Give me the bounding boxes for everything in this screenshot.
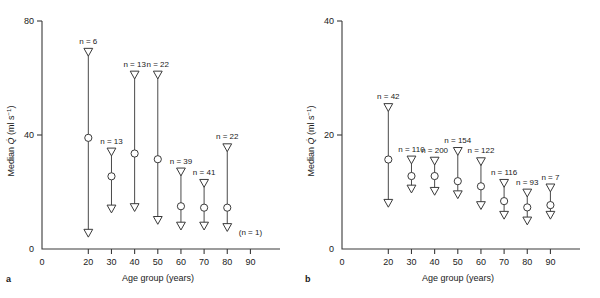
- lower-limit-marker: [153, 217, 162, 225]
- upper-limit-marker: [407, 156, 416, 164]
- lower-limit-marker: [500, 211, 509, 219]
- panel-a-plot: 0408002030405060708090Age group (years)M…: [0, 0, 300, 298]
- y-tick-label: 0: [29, 244, 34, 254]
- y-tick-label: 80: [24, 16, 34, 26]
- lower-limit-marker: [107, 205, 116, 213]
- x-tick-label: 90: [545, 257, 555, 267]
- x-axis-title: Age group (years): [422, 273, 494, 283]
- upper-limit-marker: [523, 189, 532, 197]
- sample-size-label: n = 6: [79, 37, 98, 46]
- sample-size-label: n = 39: [170, 157, 193, 166]
- figure-container: 0408002030405060708090Age group (years)M…: [0, 0, 600, 298]
- sample-size-label: n = 200: [421, 146, 448, 155]
- sample-size-label: n = 13: [100, 137, 123, 146]
- median-marker: [454, 178, 461, 185]
- median-marker: [547, 202, 554, 209]
- x-tick-label: 60: [476, 257, 486, 267]
- median-marker: [131, 150, 138, 157]
- y-tick-label: 0: [329, 244, 334, 254]
- lower-limit-marker: [177, 222, 186, 230]
- lower-limit-marker: [384, 199, 393, 207]
- median-marker: [501, 198, 508, 205]
- upper-limit-marker: [177, 168, 186, 176]
- x-tick-label: 60: [176, 257, 186, 267]
- lower-limit-marker: [453, 191, 462, 199]
- x-tick-label: 50: [153, 257, 163, 267]
- lower-limit-marker: [84, 229, 93, 237]
- lower-limit-marker: [200, 222, 209, 230]
- x-tick-label: 70: [199, 257, 209, 267]
- lower-limit-marker: [130, 204, 139, 212]
- y-axis-title: Median Q̇ (ml s−1): [305, 105, 316, 176]
- lower-limit-marker: [430, 187, 439, 195]
- sample-size-label: n = 41: [193, 168, 216, 177]
- x-tick-label: 30: [106, 257, 116, 267]
- upper-limit-marker: [430, 157, 439, 165]
- sample-size-label: n = 93: [516, 178, 539, 187]
- x-tick-label: 80: [222, 257, 232, 267]
- panel-a: 0408002030405060708090Age group (years)M…: [0, 0, 300, 298]
- sample-size-label: n = 154: [444, 136, 471, 145]
- sample-size-label: n = 13: [123, 60, 146, 69]
- x-tick-label: 40: [130, 257, 140, 267]
- upper-limit-marker: [223, 144, 232, 152]
- upper-limit-marker: [477, 158, 486, 166]
- x-tick-label: 80: [522, 257, 532, 267]
- panel-b: 0204002030405060708090Age group (years)M…: [300, 0, 600, 298]
- upper-limit-marker: [500, 179, 509, 187]
- x-axis-title: Age group (years): [122, 273, 194, 283]
- upper-limit-marker: [453, 148, 462, 156]
- upper-limit-marker: [84, 48, 93, 56]
- lower-limit-marker: [546, 211, 555, 219]
- x-tick-label: 90: [245, 257, 255, 267]
- median-marker: [154, 156, 161, 163]
- median-marker: [408, 172, 415, 179]
- median-marker: [201, 204, 208, 211]
- median-marker: [524, 204, 531, 211]
- x-tick-label: 20: [83, 257, 93, 267]
- upper-limit-marker: [130, 71, 139, 79]
- x-tick-label: 0: [339, 257, 344, 267]
- lower-limit-marker: [477, 202, 486, 210]
- axis-lines: [42, 21, 280, 249]
- upper-limit-marker: [153, 71, 162, 79]
- panel-b-letter: b: [305, 274, 311, 284]
- sample-size-label: n = 42: [377, 92, 400, 101]
- upper-limit-marker: [546, 184, 555, 192]
- sample-size-label: n = 22: [147, 60, 170, 69]
- sample-size-label: n = 122: [467, 146, 494, 155]
- x-tick-label: 30: [406, 257, 416, 267]
- x-tick-label: 70: [499, 257, 509, 267]
- upper-limit-marker: [200, 179, 209, 187]
- median-marker: [431, 172, 438, 179]
- median-marker: [385, 156, 392, 163]
- median-marker: [177, 203, 184, 210]
- sample-size-label: n = 116: [491, 168, 518, 177]
- x-tick-label: 50: [453, 257, 463, 267]
- y-tick-label: 20: [324, 130, 334, 140]
- median-marker: [108, 173, 115, 180]
- y-axis-title: Median Q̇ (ml s−1): [5, 105, 16, 176]
- lower-limit-marker: [223, 224, 232, 232]
- axis-lines: [342, 21, 580, 249]
- y-tick-label: 40: [24, 130, 34, 140]
- upper-limit-marker: [107, 148, 116, 156]
- x-tick-label: 40: [430, 257, 440, 267]
- lower-limit-marker: [523, 217, 532, 225]
- upper-limit-marker: [384, 104, 393, 112]
- median-marker: [224, 204, 231, 211]
- sample-size-label: n = 7: [541, 173, 560, 182]
- sample-size-label: n = 22: [216, 132, 239, 141]
- panel-a-letter: a: [6, 274, 11, 284]
- panel-b-plot: 0204002030405060708090Age group (years)M…: [300, 0, 600, 298]
- y-tick-label: 40: [324, 16, 334, 26]
- x-tick-label: 0: [39, 257, 44, 267]
- lower-limit-marker: [407, 185, 416, 193]
- extra-sample-note: (n = 1): [239, 228, 263, 237]
- x-tick-label: 20: [383, 257, 393, 267]
- median-marker: [85, 134, 92, 141]
- median-marker: [477, 183, 484, 190]
